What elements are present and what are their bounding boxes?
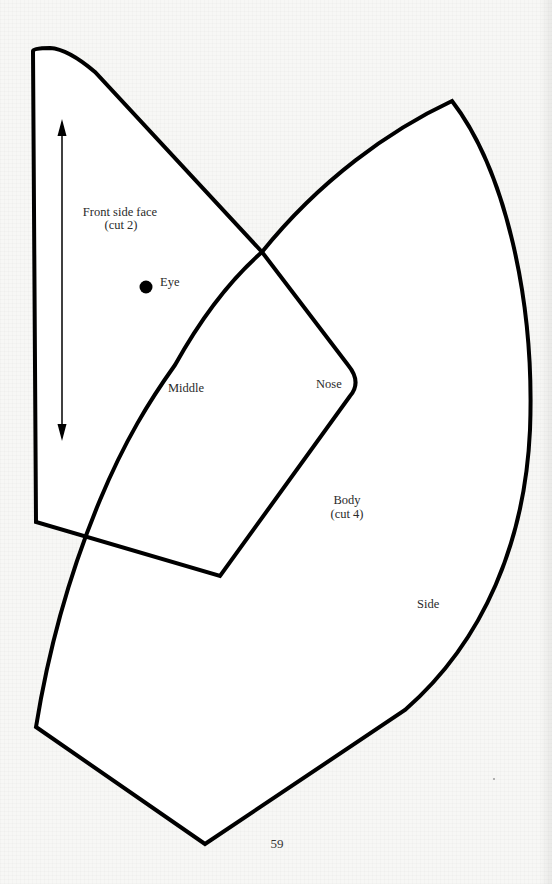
nose-label: Nose — [316, 377, 342, 391]
eye-label: Eye — [160, 275, 180, 289]
body-piece-cut: (cut 4) — [331, 507, 364, 521]
middle-label: Middle — [168, 381, 205, 395]
face-piece-cut: (cut 2) — [105, 218, 138, 232]
side-label: Side — [417, 597, 440, 611]
pattern-diagram: Front side face (cut 2) Eye Middle Nose … — [0, 0, 552, 884]
paper-speck — [493, 778, 495, 780]
pattern-page: Front side face (cut 2) Eye Middle Nose … — [0, 0, 552, 884]
page-number: 59 — [271, 836, 284, 851]
body-piece-title: Body — [333, 493, 361, 507]
face-piece-title: Front side face — [83, 205, 158, 219]
eye-dot-icon — [140, 281, 153, 294]
